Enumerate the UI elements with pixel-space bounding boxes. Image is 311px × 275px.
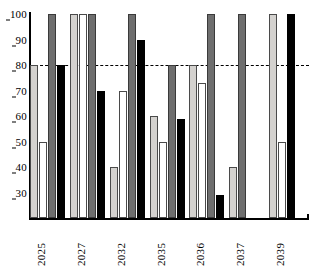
bar-group-2036 [189, 14, 229, 218]
y-tick-40: 40 [16, 162, 27, 173]
bar-group-2035 [150, 14, 190, 218]
y-tick-30: 30 [16, 187, 27, 198]
x-axis-tick-labels: 2025202720322035203620372039 [30, 222, 309, 274]
x-tick-2039: 2039 [275, 243, 286, 266]
y-tick-80: 80 [16, 60, 27, 71]
bar-2027-series-1-light-gray [70, 14, 78, 218]
x-tick-2027: 2027 [76, 243, 87, 266]
bar-2039-series-4-black [287, 14, 295, 218]
bar-group-2032 [110, 14, 150, 218]
bar-2025-series-4-black [57, 65, 65, 218]
x-tick-cell-2039: 2039 [269, 222, 309, 274]
x-tick-cell-2032: 2032 [110, 222, 150, 274]
bar-group-2039 [269, 14, 309, 218]
y-tick-mark-70 [12, 96, 16, 97]
bar-groups [30, 14, 309, 218]
x-tick-cell-2027: 2027 [70, 222, 110, 274]
y-tick-mark-50 [12, 147, 16, 148]
bar-2032-series-1-light-gray [110, 167, 118, 218]
x-tick-2037: 2037 [235, 243, 246, 266]
y-tick-mark-40 [12, 173, 16, 174]
x-tick-cell-2037: 2037 [229, 222, 269, 274]
bar-2032-series-4-black [137, 40, 145, 219]
y-tick-mark-60 [12, 122, 16, 123]
bar-2032-series-2-white [119, 91, 127, 219]
bar-2036-series-2-white [198, 83, 206, 218]
bar-2025-series-1-light-gray [30, 65, 38, 218]
plot-area: 30405060708090100 [30, 14, 309, 218]
y-tick-mark-100 [6, 20, 10, 21]
y-tick-60: 60 [16, 111, 27, 122]
y-tick-100: 100 [10, 9, 27, 20]
bar-2027-series-2-white [79, 14, 87, 218]
x-tick-2036: 2036 [195, 243, 206, 266]
y-tick-mark-80 [12, 71, 16, 72]
bar-2032-series-3-dark-gray [128, 14, 136, 218]
bar-2039-series-2-white [278, 142, 286, 219]
bar-2037-series-3-dark-gray [238, 14, 246, 218]
y-tick-70: 70 [16, 85, 27, 96]
x-tick-2035: 2035 [156, 243, 167, 266]
y-tick-mark-30 [12, 198, 16, 199]
bar-group-2037 [229, 14, 269, 218]
y-tick-90: 90 [16, 34, 27, 45]
bar-2025-series-2-white [39, 142, 47, 219]
bar-group-2027 [70, 14, 110, 218]
bar-2035-series-3-dark-gray [168, 65, 176, 218]
bar-2036-series-4-black [216, 195, 224, 218]
x-tick-cell-2036: 2036 [189, 222, 229, 274]
x-tick-2032: 2032 [116, 243, 127, 266]
bar-2037-series-1-light-gray [229, 167, 237, 218]
x-tick-2025: 2025 [36, 243, 47, 266]
bar-2027-series-4-black [97, 91, 105, 219]
bar-group-2025 [30, 14, 70, 218]
bar-2027-series-3-dark-gray [88, 14, 96, 218]
y-tick-mark-90 [12, 45, 16, 46]
x-axis-line [29, 218, 309, 220]
bar-2035-series-1-light-gray [150, 116, 158, 218]
bar-2039-series-1-light-gray [269, 14, 277, 218]
bar-2036-series-1-light-gray [189, 65, 197, 218]
bar-2035-series-4-black [177, 119, 185, 218]
x-tick-cell-2025: 2025 [30, 222, 70, 274]
bar-2035-series-2-white [159, 142, 167, 219]
bar-chart: 30405060708090100 2025202720322035203620… [0, 0, 311, 275]
bar-2025-series-3-dark-gray [48, 14, 56, 218]
y-tick-50: 50 [16, 136, 27, 147]
x-tick-cell-2035: 2035 [150, 222, 190, 274]
bar-2036-series-3-dark-gray [207, 14, 215, 218]
